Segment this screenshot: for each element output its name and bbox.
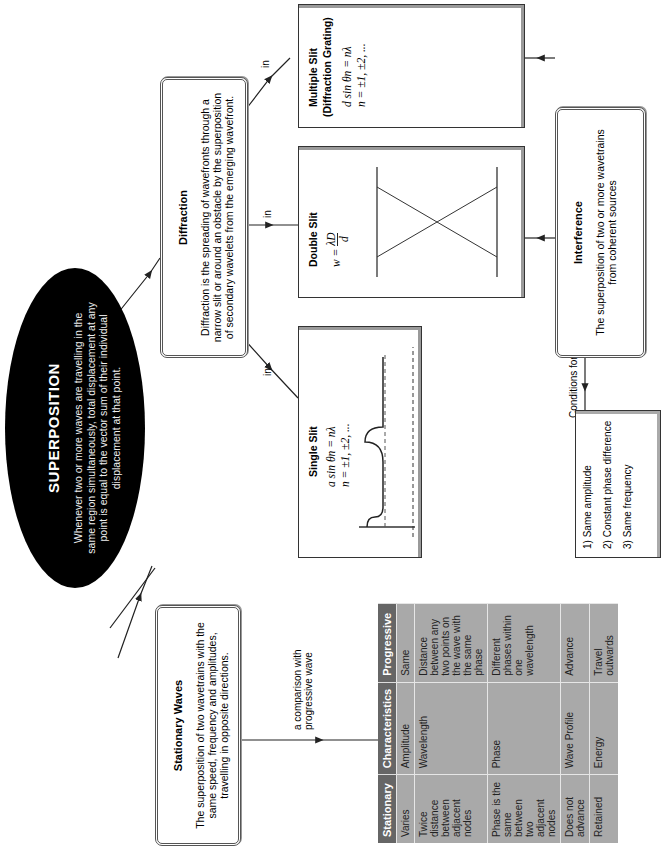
multiple-slit-title: Multiple Slit — [307, 48, 319, 107]
multiple-slit-equation: d sin θn = nλ — [341, 46, 353, 107]
condition-item: 3) Same frequency — [622, 419, 634, 549]
comparison-line-1: a comparison with — [292, 620, 303, 730]
edge-label-in-double: in — [262, 210, 273, 218]
table-cell: Travel outwards — [590, 604, 619, 683]
table-cell: Phase is the same between two adjacent n… — [488, 775, 561, 843]
table-row: Phase is the same between two adjacent n… — [488, 604, 561, 844]
diffraction-title: Diffraction — [177, 80, 189, 355]
double-slit-diagram — [357, 151, 521, 297]
column-header: Progressive — [378, 604, 397, 683]
eq-denominator: d — [338, 233, 350, 246]
stationary-waves-node: Stationary Waves The superposition of tw… — [155, 605, 241, 846]
table-header-row: Stationary Characteristics Progressive — [378, 604, 397, 844]
double-slit-equation: w = λD d — [325, 233, 350, 267]
interference-node: Interference The superposition of two or… — [555, 107, 646, 358]
table-cell: Twice distance between adjacent nodes — [415, 775, 488, 843]
multiple-slit-orders: n = ±1, ±2, ... — [355, 43, 367, 107]
table-cell: Same — [397, 604, 415, 683]
diffraction-description: Diffraction is the spreading of wavefron… — [199, 88, 235, 347]
multiple-slit-node: Multiple Slit (Diffraction Grating) d si… — [298, 4, 525, 128]
superposition-title: SUPERPOSITION — [45, 268, 62, 588]
column-header: Stationary — [378, 775, 397, 843]
table-cell: Advance — [561, 604, 590, 683]
interference-description: The superposition of two or more wavetra… — [594, 118, 618, 347]
table-cell: Varies — [397, 775, 415, 843]
table-cell: Wave Profile — [561, 682, 590, 775]
stationary-waves-description: The superposition of two wavetrains with… — [194, 616, 230, 835]
column-header: Characteristics — [378, 682, 397, 775]
rotated-concept-map: SUPERPOSITION Whenever two or more waves… — [0, 0, 666, 858]
table-cell: Retained — [590, 775, 619, 843]
table-row: Twice distance between adjacent nodes Wa… — [415, 604, 488, 844]
condition-item: 2) Constant phase difference — [602, 419, 614, 549]
condition-item: 1) Same amplitude — [582, 419, 594, 549]
table-cell: Different phases within one wavelength — [488, 604, 561, 683]
single-slit-node: Single Slit a sin θn = nλ n = ±1, ±2, ..… — [298, 326, 422, 558]
table-cell: Does not advance — [561, 775, 590, 843]
double-slit-title: Double Slit — [307, 212, 319, 267]
single-slit-diagram — [355, 331, 419, 557]
eq-numerator: λD — [325, 233, 338, 246]
conditions-node: 1) Same amplitude 2) Constant phase diff… — [575, 410, 661, 558]
table-cell: Energy — [590, 682, 619, 775]
comparison-table: Stationary Characteristics Progressive V… — [378, 603, 618, 843]
single-slit-orders: n = ±1, ±2, ... — [339, 423, 351, 487]
interference-title: Interference — [572, 110, 584, 355]
stationary-waves-title: Stationary Waves — [172, 608, 184, 843]
double-slit-node: Double Slit w = λD d — [298, 146, 525, 298]
single-slit-equation: a sin θn = nλ — [325, 426, 337, 487]
edge-label-in-multiple: in — [260, 60, 271, 68]
edge-label-in-single: in — [262, 368, 273, 376]
table-cell: Wavelength — [415, 682, 488, 775]
diffraction-node: Diffraction Diffraction is the spreading… — [160, 77, 248, 358]
table-row: Retained Energy Travel outwards — [590, 604, 619, 844]
multiple-slit-subtitle: (Diffraction Grating) — [321, 17, 333, 117]
eq-lhs: w = — [330, 249, 342, 267]
table-row: Does not advance Wave Profile Advance — [561, 604, 590, 844]
superposition-node: SUPERPOSITION Whenever two or more waves… — [5, 268, 145, 588]
single-slit-title: Single Slit — [307, 426, 319, 477]
table-row: Varies Amplitude Same — [397, 604, 415, 844]
comparison-edge-label: a comparison with progressive wave — [292, 620, 314, 730]
table-cell: Distance between any two points on the w… — [415, 604, 488, 683]
table-cell: Amplitude — [397, 682, 415, 775]
comparison-line-2: progressive wave — [303, 620, 314, 730]
table-cell: Phase — [488, 682, 561, 775]
superposition-description: Whenever two or more waves are travellin… — [72, 300, 122, 556]
